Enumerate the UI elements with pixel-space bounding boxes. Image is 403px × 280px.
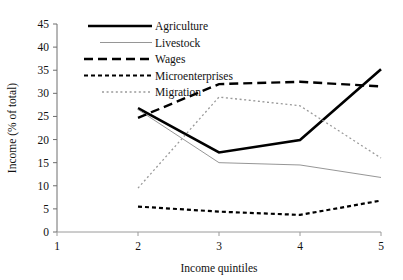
y-tick-label: 10: [38, 180, 50, 192]
y-tick-label: 40: [38, 41, 50, 53]
legend-label-microenterprises: Microenterprises: [155, 70, 233, 83]
x-tick-label: 1: [54, 240, 60, 252]
series-line-livestock: [138, 110, 381, 178]
x-tick-label: 5: [378, 240, 384, 252]
legend-label-livestock: Livestock: [155, 37, 201, 49]
y-tick-label: 0: [43, 226, 49, 238]
chart-figure: 051015202530354045 12345 Income quintile…: [0, 0, 403, 280]
chart-canvas: 051015202530354045 12345 Income quintile…: [0, 0, 403, 280]
x-axis-title: Income quintiles: [181, 262, 258, 275]
y-tick-label: 30: [38, 87, 50, 99]
y-tick-label: 45: [38, 18, 50, 30]
x-axis-ticks: [57, 232, 381, 236]
legend-label-migration: Migration: [155, 86, 201, 99]
legend-label-agriculture: Agriculture: [155, 20, 208, 33]
x-tick-label: 2: [135, 240, 141, 252]
x-tick-label: 3: [216, 240, 222, 252]
y-tick-label: 20: [38, 134, 50, 146]
y-tick-label: 15: [38, 157, 50, 169]
series-line-migration: [138, 97, 381, 188]
chart-legend: AgricultureLivestockWagesMicroenterprise…: [84, 20, 233, 99]
y-axis-tick-labels: 051015202530354045: [38, 18, 50, 238]
series-line-microenterprises: [138, 201, 381, 215]
y-tick-label: 35: [38, 64, 50, 76]
y-tick-label: 25: [38, 110, 50, 122]
y-axis-title: Income (% of total): [6, 83, 19, 174]
x-axis-tick-labels: 12345: [54, 240, 384, 252]
x-tick-label: 4: [297, 240, 303, 252]
legend-label-wages: Wages: [155, 53, 186, 66]
y-axis-ticks: [53, 24, 57, 232]
y-tick-label: 5: [43, 203, 49, 215]
